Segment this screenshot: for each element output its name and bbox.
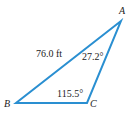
angle-c-measure: 115.5° xyxy=(57,88,83,99)
angle-a-measure: 27.2° xyxy=(82,51,104,62)
side-ab-length: 76.0 ft xyxy=(36,48,62,59)
vertex-label-a: A xyxy=(118,5,126,16)
vertex-label-b: B xyxy=(4,98,10,109)
vertex-label-c: C xyxy=(90,98,97,109)
triangle-diagram: A B C 76.0 ft 27.2° 115.5° xyxy=(0,0,132,115)
